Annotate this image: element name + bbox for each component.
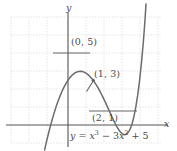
point-marker-inflection bbox=[92, 79, 95, 82]
equation-label: y = x3 − 3x2 + 5 bbox=[70, 130, 149, 141]
point-label-local-min: (2, 1) bbox=[92, 112, 118, 123]
equation-minus: − bbox=[102, 130, 110, 141]
equation-lhs: y bbox=[70, 130, 75, 141]
y-axis-label: y bbox=[66, 2, 71, 13]
equation-equals: = bbox=[78, 130, 86, 141]
graph-figure: y x (0, 5) (1, 3) (2, 1) y = x3 − 3x2 + … bbox=[0, 0, 177, 151]
equation-term2-exp: 2 bbox=[124, 129, 128, 137]
x-axis-label: x bbox=[164, 118, 169, 129]
point-label-local-max: (0, 5) bbox=[71, 36, 97, 47]
point-label-inflection: (1, 3) bbox=[94, 68, 120, 79]
leader-line-inflection bbox=[87, 81, 94, 92]
equation-term1-exp: 3 bbox=[95, 129, 99, 137]
equation-plus: + bbox=[132, 130, 140, 141]
graph-canvas bbox=[0, 0, 177, 151]
equation-constant: 5 bbox=[143, 130, 149, 141]
